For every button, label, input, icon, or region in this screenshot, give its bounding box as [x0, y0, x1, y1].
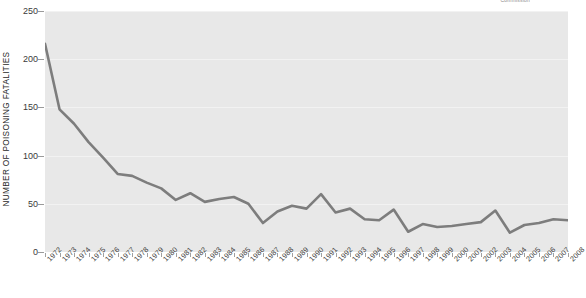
x-tick-label: 2008: [568, 245, 586, 263]
y-tick-label: 200: [12, 54, 38, 64]
y-tick-label: 250: [12, 6, 38, 16]
corner-note: Commission: [500, 0, 530, 3]
plot-area: [45, 11, 568, 252]
y-axis-ticks: 050100150200250: [10, 0, 38, 298]
y-tick-mark: [38, 204, 44, 205]
fatalities-line-series: [45, 11, 568, 252]
y-tick-mark: [38, 252, 44, 253]
y-tick-mark: [38, 156, 44, 157]
y-tick-mark: [38, 59, 44, 60]
y-tick-label: 0: [12, 247, 38, 257]
series-line: [45, 44, 568, 233]
y-tick-mark: [38, 11, 44, 12]
y-tick-mark: [38, 107, 44, 108]
x-axis-labels: 1972197319741975197619771978197919801981…: [45, 253, 568, 298]
y-tick-label: 50: [12, 199, 38, 209]
y-tick-label: 100: [12, 151, 38, 161]
y-tick-label: 150: [12, 102, 38, 112]
